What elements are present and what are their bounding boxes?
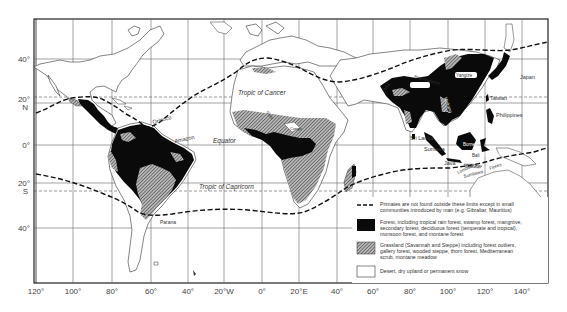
legend-grassland-swatch [357,242,375,254]
svg-text:120°: 120° [477,287,494,296]
tropic-of-capricorn-label: Tropic of Capricorn [199,183,254,191]
svg-text:100°: 100° [440,287,457,296]
svg-text:80°: 80° [106,287,118,296]
svg-text:60°: 60° [145,287,157,296]
svg-text:S: S [23,187,28,196]
label-ganges: Ganges [410,83,427,88]
equator-label: Equator [213,137,237,145]
svg-text:scrub, montane meadow: scrub, montane meadow [380,254,437,260]
svg-text:40°: 40° [182,287,194,296]
label-sulawesi: Sulawesi [484,152,502,157]
svg-text:40°: 40° [18,55,30,64]
label-sumatra: Sumatra [424,146,446,152]
primate-distribution-map: Tropic of Cancer Equator Tropic of Capri… [0,0,567,312]
label-sri-lanka: Sri Lanka [410,135,434,141]
label-congo: Congo [290,126,303,131]
svg-text:140°: 140° [514,287,531,296]
svg-text:N: N [22,103,28,112]
longitude-labels: 120° 100° 80° 60° 40° 20°W 0° 20°E 40° 6… [28,287,531,296]
svg-text:60°: 60° [367,287,379,296]
svg-text:40°: 40° [331,287,343,296]
svg-text:40°: 40° [18,224,30,233]
label-japan: Japan [520,74,535,80]
tropic-of-cancer-label: Tropic of Cancer [238,89,286,97]
svg-text:100°: 100° [65,287,82,296]
svg-text:80°: 80° [404,287,416,296]
latitude-labels: 40° 20° N 0° 20° S 40° [18,55,30,233]
svg-text:communities introduced by man: communities introduced by man (e.g. Gibr… [380,207,512,213]
label-borneo: Borneo [463,142,478,147]
label-parana: Parana [160,219,176,225]
label-yangtze: Yangtze [456,73,473,78]
label-taiwan: Taiwan [490,95,507,101]
label-java: Java [444,160,457,166]
legend-forest-swatch [357,219,375,231]
svg-text:20°W: 20°W [214,287,234,296]
label-philippines: Philippines [496,112,523,118]
legend-desert-swatch [357,266,375,277]
svg-text:20°E: 20°E [290,287,307,296]
label-bali: Bali [472,153,480,158]
svg-text:Desert, dry upland or permanen: Desert, dry upland or permanent snow [380,268,468,274]
svg-text:0°: 0° [258,287,266,296]
svg-text:monsoon forest, and montane fo: monsoon forest, and montane forest [380,231,464,237]
svg-text:0°: 0° [22,141,30,150]
svg-text:120°: 120° [28,287,45,296]
